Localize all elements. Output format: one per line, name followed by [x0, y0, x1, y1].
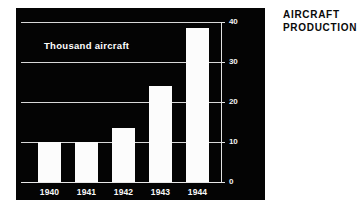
plot-area: 010203040 19401941194219431944 [16, 8, 265, 200]
x-tick-label-1943: 1943 [143, 188, 178, 197]
y-tick-label-20: 20 [229, 98, 238, 106]
units-label: Thousand aircraft [44, 40, 129, 51]
x-tick-label-1942: 1942 [106, 188, 141, 197]
chart-title: AIRCRAFT PRODUCTION [283, 9, 357, 34]
y-tick-label-0: 0 [229, 178, 233, 186]
y-tick-label-30: 30 [229, 58, 238, 66]
bar-1941 [75, 142, 98, 182]
chart-title-line-1: AIRCRAFT [283, 9, 357, 22]
x-tick-label-1940: 1940 [32, 188, 67, 197]
bar-1943 [149, 86, 172, 182]
y-tick-label-10: 10 [229, 138, 238, 146]
bar-1942 [112, 128, 135, 182]
aircraft-production-figure: 010203040 19401941194219431944 Thousand … [0, 0, 362, 213]
y-tick-label-40: 40 [229, 18, 238, 26]
chart-panel: 010203040 19401941194219431944 Thousand … [16, 8, 265, 200]
x-axis-baseline [21, 182, 222, 183]
x-tick-label-1941: 1941 [69, 188, 104, 197]
chart-title-line-2: PRODUCTION [283, 22, 357, 35]
y-axis-spine [221, 22, 222, 183]
gridline-40 [21, 22, 221, 23]
bar-1944 [186, 28, 209, 182]
x-tick-label-1944: 1944 [180, 188, 215, 197]
bar-1940 [38, 142, 61, 182]
